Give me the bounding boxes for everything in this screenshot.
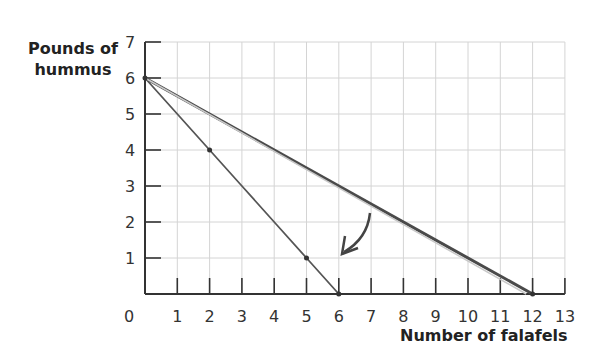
svg-text:6: 6 (125, 69, 135, 88)
svg-text:7: 7 (125, 33, 135, 52)
svg-text:2: 2 (205, 307, 215, 326)
svg-text:8: 8 (398, 307, 408, 326)
chart-canvas: 0123456789101112131234567 (0, 0, 604, 363)
svg-text:4: 4 (269, 307, 279, 326)
svg-text:12: 12 (522, 307, 542, 326)
svg-text:2: 2 (125, 213, 135, 232)
svg-text:0: 0 (124, 307, 134, 326)
svg-text:7: 7 (366, 307, 376, 326)
svg-text:10: 10 (458, 307, 478, 326)
svg-text:1: 1 (125, 249, 135, 268)
svg-text:11: 11 (490, 307, 510, 326)
svg-text:13: 13 (555, 307, 575, 326)
svg-text:5: 5 (301, 307, 311, 326)
svg-text:3: 3 (125, 177, 135, 196)
arrow-annotation (342, 213, 370, 254)
svg-text:6: 6 (334, 307, 344, 326)
svg-text:9: 9 (431, 307, 441, 326)
svg-text:1: 1 (172, 307, 182, 326)
axes (145, 42, 565, 294)
tick-labels: 0123456789101112131234567 (124, 33, 575, 326)
svg-text:4: 4 (125, 141, 135, 160)
svg-text:3: 3 (237, 307, 247, 326)
svg-text:5: 5 (125, 105, 135, 124)
grid-lines (145, 42, 565, 294)
